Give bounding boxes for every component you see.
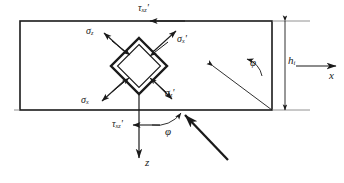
figure-canvas: τxz' τxz' σz σx' σx σz' φ φ hi x z	[0, 0, 344, 183]
angle-arc-phi-bottom	[152, 113, 181, 125]
inclined-load-arrow	[185, 115, 228, 160]
label-sigma-z: σz	[86, 26, 93, 36]
inclined-reference-line	[213, 59, 272, 110]
label-phi-bottom: φ	[165, 126, 171, 137]
stress-arrow-sigma-x-prime	[154, 31, 176, 51]
label-sigma-x: σx	[81, 95, 89, 105]
label-sigma-x-prime: σx'	[177, 34, 187, 44]
label-h-thickness: hi	[288, 55, 295, 67]
label-tau-xz-prime-bottom: τxz'	[112, 119, 123, 129]
label-tau-xz-prime-top: τxz'	[138, 3, 149, 13]
label-sigma-z-prime: σz'	[165, 88, 174, 98]
label-axis-z: z	[145, 157, 149, 168]
label-phi-right: φ	[250, 57, 256, 68]
label-axis-x: x	[329, 70, 334, 81]
